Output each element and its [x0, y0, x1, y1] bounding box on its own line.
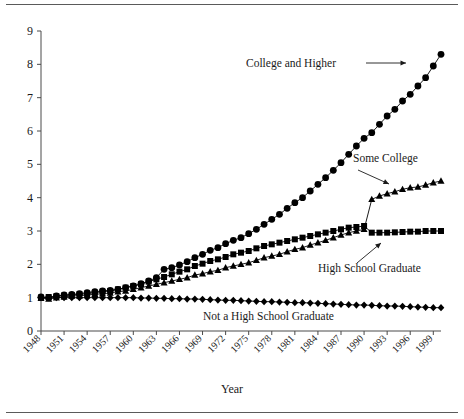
x-tick-label: 1951	[44, 333, 66, 355]
data-point-square	[184, 266, 190, 272]
data-point-diamond	[276, 298, 283, 305]
data-point-diamond	[192, 295, 199, 302]
y-tick-label: 4	[27, 191, 33, 205]
data-point-diamond	[168, 295, 175, 302]
data-point-square	[400, 229, 406, 235]
data-point-diamond	[407, 303, 414, 310]
data-point-circle	[415, 83, 422, 90]
data-point-square	[361, 223, 367, 229]
data-point-diamond	[292, 299, 299, 306]
data-point-diamond	[253, 298, 260, 305]
y-tick-label: 3	[27, 224, 33, 238]
y-tick-label: 8	[27, 57, 33, 71]
y-tick-label: 1	[27, 291, 33, 305]
data-point-square	[207, 258, 213, 264]
data-point-diamond	[422, 304, 429, 311]
x-tick-label: 1999	[413, 333, 435, 355]
data-point-diamond	[207, 296, 214, 303]
data-point-diamond	[115, 294, 122, 301]
data-point-circle	[391, 106, 398, 113]
data-point-diamond	[392, 302, 399, 309]
data-point-diamond	[215, 296, 222, 303]
x-tick-label: 1981	[274, 333, 296, 355]
data-point-circle	[299, 194, 306, 201]
data-point-diamond	[384, 302, 391, 309]
data-point-circle	[315, 181, 322, 188]
data-point-diamond	[184, 295, 191, 302]
data-point-square	[146, 279, 152, 285]
data-point-square	[138, 281, 144, 287]
data-point-diamond	[315, 300, 322, 307]
data-point-circle	[230, 237, 237, 244]
data-point-diamond	[176, 295, 183, 302]
data-point-circle	[407, 91, 414, 98]
data-point-diamond	[430, 304, 437, 311]
x-tick-label: 1996	[390, 333, 412, 355]
x-tick-label: 1993	[367, 333, 389, 355]
data-point-diamond	[338, 301, 345, 308]
x-tick-label: 1987	[320, 333, 342, 355]
figure-container: 0123456789 19481951195419571960196319661…	[0, 0, 464, 419]
data-point-circle	[184, 258, 191, 265]
data-point-diamond	[230, 297, 237, 304]
data-point-circle	[245, 230, 252, 237]
x-tick-label: 1972	[205, 333, 227, 355]
data-point-square	[438, 228, 444, 234]
data-point-diamond	[322, 300, 329, 307]
y-tick-label: 5	[27, 157, 33, 171]
data-point-circle	[330, 167, 337, 174]
data-point-diamond	[361, 301, 368, 308]
y-tick-label: 7	[27, 91, 33, 105]
annotation-arrowhead-college-and-higher	[401, 60, 407, 65]
data-point-diamond	[284, 299, 291, 306]
data-point-square	[346, 225, 352, 231]
data-point-circle	[276, 211, 283, 218]
x-tick-label: 1978	[251, 333, 273, 355]
data-point-circle	[261, 221, 268, 228]
data-point-square	[200, 261, 206, 267]
data-point-circle	[322, 174, 329, 181]
data-point-diamond	[368, 302, 375, 309]
data-point-diamond	[299, 299, 306, 306]
x-tick-label: 1960	[113, 333, 135, 355]
x-axis: 1948195119541957196019631966196919721975…	[20, 331, 441, 355]
x-tick-label: 1966	[159, 333, 181, 355]
data-point-square	[300, 235, 306, 241]
data-point-diamond	[353, 301, 360, 308]
data-point-square	[330, 228, 336, 234]
data-point-square	[392, 229, 398, 235]
line-chart: 0123456789 19481951195419571960196319661…	[0, 0, 464, 419]
data-point-square	[161, 274, 167, 280]
data-point-circle	[438, 51, 445, 58]
data-point-circle	[361, 135, 368, 142]
x-tick-label: 1984	[297, 333, 319, 355]
data-point-diamond	[145, 294, 152, 301]
data-point-square	[169, 271, 175, 277]
data-point-diamond	[238, 297, 245, 304]
data-point-circle	[399, 98, 406, 105]
data-point-diamond	[307, 299, 314, 306]
data-point-circle	[199, 251, 206, 258]
data-point-diamond	[161, 295, 168, 302]
x-tick-label: 1948	[20, 333, 42, 355]
data-point-circle	[176, 262, 183, 269]
y-tick-label: 2	[27, 257, 33, 271]
data-point-square	[123, 285, 129, 291]
annotation-label-not-a-high-school-graduate: Not a High School Graduate	[203, 310, 334, 323]
data-point-circle	[222, 240, 229, 247]
data-point-diamond	[130, 294, 137, 301]
data-point-diamond	[122, 294, 129, 301]
x-tick-label: 1963	[136, 333, 158, 355]
data-point-circle	[215, 244, 222, 251]
data-point-square	[384, 230, 390, 236]
data-point-diamond	[261, 298, 268, 305]
data-point-circle	[284, 205, 291, 212]
data-point-circle	[353, 143, 360, 150]
data-point-triangle	[437, 177, 444, 183]
annotation-label-some-college: Some College	[353, 152, 418, 165]
data-point-circle	[368, 129, 375, 136]
data-point-square	[430, 228, 436, 234]
data-point-square	[315, 231, 321, 237]
data-point-square	[415, 229, 421, 235]
data-point-diamond	[345, 301, 352, 308]
